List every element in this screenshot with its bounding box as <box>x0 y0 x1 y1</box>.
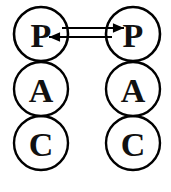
node-label-right-c: C <box>121 126 146 163</box>
connector-reverse[interactable] <box>49 32 112 42</box>
diagram-canvas: C A P C A P <box>0 0 171 192</box>
node-label-left-c: C <box>29 126 54 163</box>
node-group-right-c[interactable]: C <box>106 116 160 170</box>
node-label-left-p: P <box>31 17 52 54</box>
node-label-right-a: A <box>121 72 146 109</box>
node-group-left-c[interactable]: C <box>14 116 68 170</box>
node-group-right-p[interactable]: P <box>106 7 160 61</box>
pac-diagram: C A P C A P <box>0 0 171 192</box>
node-group-right-a[interactable]: A <box>106 62 160 116</box>
node-label-right-p: P <box>123 17 144 54</box>
node-label-left-a: A <box>29 72 54 109</box>
node-group-left-a[interactable]: A <box>14 62 68 116</box>
connector-forward[interactable] <box>62 23 124 33</box>
